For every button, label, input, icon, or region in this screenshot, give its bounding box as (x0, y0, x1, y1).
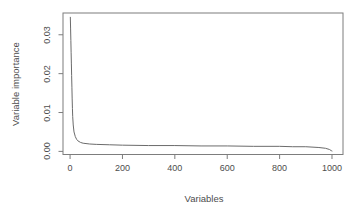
y-tick-label: 0.03 (42, 26, 52, 44)
x-tick-label: 0 (68, 163, 73, 173)
x-tick-label: 600 (220, 163, 235, 173)
y-tick-label: 0.01 (42, 104, 52, 122)
importance-curve (70, 17, 332, 151)
y-axis-title: Variable importance (10, 42, 21, 126)
x-tick-label: 800 (272, 163, 287, 173)
plot-canvas (0, 0, 358, 209)
x-axis-title: Variables (185, 193, 224, 204)
variable-importance-plot: Variable importance Variables 0200400600… (0, 0, 358, 209)
y-tick-label: 0.00 (42, 143, 52, 161)
x-tick-label: 1000 (322, 163, 342, 173)
plot-box (63, 13, 343, 155)
x-tick-label: 200 (115, 163, 130, 173)
y-tick-label: 0.02 (42, 65, 52, 83)
x-tick-label: 400 (167, 163, 182, 173)
